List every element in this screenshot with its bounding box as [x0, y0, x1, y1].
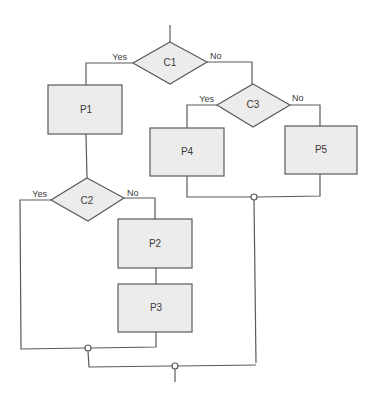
- c2-yes-connector: [20, 200, 85, 349]
- p5-to-junction1-connector: [257, 174, 320, 197]
- junction1-to-junction3-connector: [254, 200, 256, 363]
- junction-3: [172, 363, 178, 369]
- no-label: No: [127, 188, 139, 198]
- yes-label: Yes: [199, 94, 214, 104]
- junction2-to-junction3-connector: [88, 351, 172, 367]
- decision-label: C1: [164, 57, 177, 68]
- junction-1: [251, 194, 257, 200]
- no-label: No: [210, 51, 222, 61]
- process-label: P1: [80, 104, 93, 115]
- flowchart: C1 Yes No C3 Yes No C2 Yes No P1 P4 P5 P…: [0, 0, 375, 397]
- junction1-to-junction3-bottom-connector: [178, 365, 256, 366]
- p1-to-c2-connector: [86, 134, 87, 178]
- c3-no-connector: [290, 105, 320, 126]
- process-p3: P3: [118, 284, 192, 332]
- yes-label: Yes: [32, 189, 47, 199]
- p4-to-junction1-connector: [187, 176, 251, 197]
- process-p5: P5: [285, 126, 357, 174]
- no-label: No: [292, 93, 304, 103]
- c1-yes-connector: [86, 63, 133, 85]
- yes-label: Yes: [112, 52, 127, 62]
- c1-no-connector: [207, 62, 252, 84]
- decision-label: C3: [247, 99, 260, 110]
- process-p1: P1: [48, 85, 122, 134]
- c2-no-connector: [124, 198, 155, 219]
- c3-yes-connector: [187, 105, 217, 128]
- decision-label: C2: [81, 195, 94, 206]
- junction-2: [85, 345, 91, 351]
- process-label: P2: [149, 238, 162, 249]
- process-label: P5: [315, 144, 328, 155]
- p3-to-junction2-connector: [91, 332, 156, 348]
- process-label: P3: [150, 302, 163, 313]
- process-p2: P2: [118, 219, 192, 268]
- process-p4: P4: [150, 128, 224, 176]
- process-label: P4: [181, 146, 194, 157]
